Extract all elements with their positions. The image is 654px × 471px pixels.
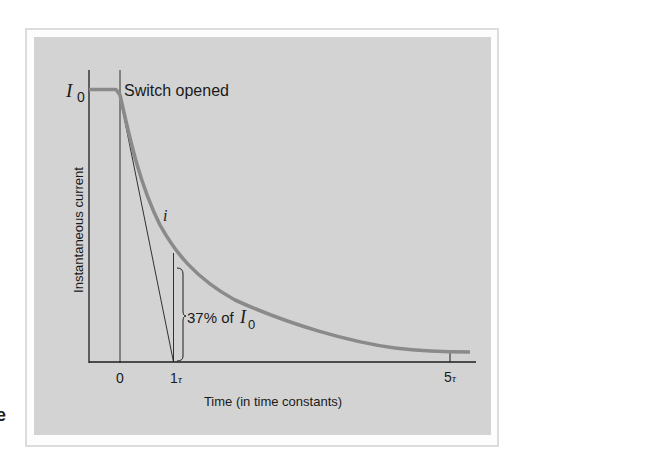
percentage-annotation-symbol: I	[239, 307, 247, 327]
x-axis-label: Time (in time constants)	[204, 394, 342, 409]
x-tick-1tau: 1	[170, 370, 178, 386]
x-tick-1tau-unit: τ	[178, 373, 183, 385]
curve-label-i: i	[163, 207, 167, 224]
y-axis-label: Instantaneous current	[71, 167, 86, 293]
initial-level-label: I	[65, 80, 74, 101]
percentage-annotation: 37% of	[187, 309, 235, 326]
percentage-annotation-subscript: 0	[248, 317, 255, 332]
percentage-brace	[177, 268, 186, 361]
x-tick-0: 0	[116, 370, 124, 386]
x-tick-5tau: 5	[444, 369, 452, 385]
initial-level-subscript: 0	[77, 89, 85, 105]
current-decay-diagram: I 0 Switch opened i 37% of I 0 Time (in …	[0, 0, 654, 471]
current-decay-curve	[89, 90, 470, 353]
switch-opened-label: Switch opened	[124, 82, 229, 99]
x-tick-5tau-unit: τ	[452, 372, 457, 384]
